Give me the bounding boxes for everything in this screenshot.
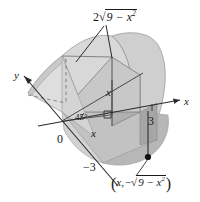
point-radicand: 9 − x [138,176,161,188]
label-x-axis: x [184,96,189,107]
point-first-coord: x, [116,176,124,188]
label-point-expression: (x, −√9 − x2) [111,175,171,188]
top-radicand: 9 − x [107,10,132,24]
label-x-vertical: x [106,87,111,98]
label-tick-positive-three: 3 [148,115,154,127]
solid-drawing [0,0,200,202]
top-exponent: 2 [132,9,136,18]
label-top-expression: 2√9 − x2 [93,9,137,23]
label-tick-negative-three: −3 [83,161,96,173]
point-radical: √9 − x2 [131,175,166,188]
calculus-solid-figure: 2√9 − x2 y x 0 3 −3 45° x x (x, −√9 − x2… [0,0,200,202]
point-close-paren: ) [166,175,171,192]
label-y-axis: y [14,70,19,81]
label-x-horizontal: x [91,128,96,139]
top-radical: √9 − x2 [99,9,137,23]
point-exponent: 2 [161,175,164,182]
label-angle-45: 45° [75,113,88,122]
y-axis-arrow [24,76,32,84]
label-origin: 0 [57,133,63,145]
